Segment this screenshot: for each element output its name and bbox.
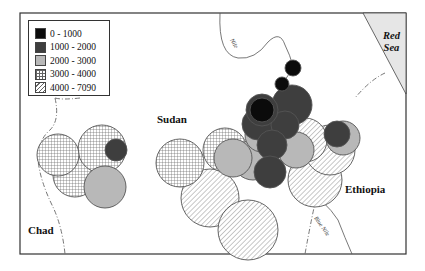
legend-item-1000-2000: 1000 - 2000 [35, 41, 109, 55]
label-chad: Chad [28, 224, 54, 236]
label-red-sea-line1: Red [383, 30, 400, 42]
legend-swatch-dark-gray [35, 42, 46, 53]
legend-label: 1000 - 2000 [50, 42, 96, 52]
legend-label: 2000 - 3000 [50, 56, 96, 66]
label-red-sea-line2: Sea [383, 42, 400, 54]
legend-item-0-1000: 0 - 1000 [35, 27, 109, 41]
legend-item-4000-7090: 4000 - 7090 [35, 81, 109, 95]
legend-label: 4000 - 7090 [50, 83, 96, 93]
label-red-sea: Red Sea [383, 30, 400, 54]
legend-label: 0 - 1000 [50, 29, 82, 39]
legend-swatch-black [35, 28, 46, 39]
legend-item-2000-3000: 2000 - 3000 [35, 54, 109, 68]
legend-label: 3000 - 4000 [50, 69, 96, 79]
legend: 0 - 1000 1000 - 2000 2000 - 3000 3000 - … [28, 20, 110, 96]
legend-swatch-light-gray [35, 55, 46, 66]
label-ethiopia: Ethiopia [345, 183, 385, 195]
legend-item-3000-4000: 3000 - 4000 [35, 68, 109, 82]
label-sudan: Sudan [157, 113, 187, 125]
legend-swatch-grid [35, 69, 46, 80]
legend-swatch-hatch [35, 82, 46, 93]
